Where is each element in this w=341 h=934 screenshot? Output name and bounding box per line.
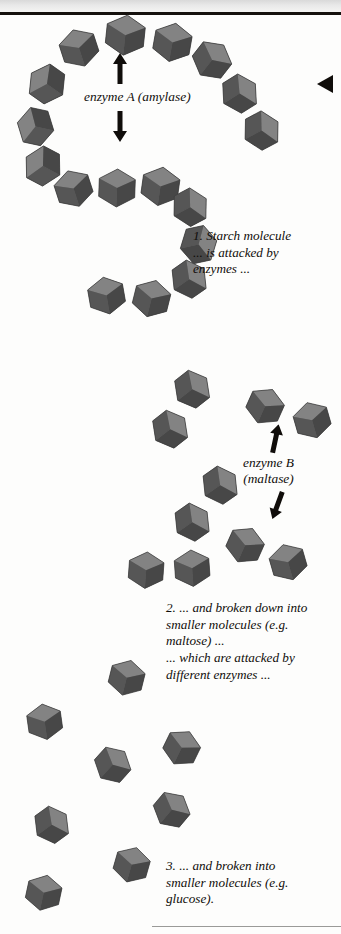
molecule-unit — [102, 655, 151, 701]
molecule-unit — [25, 797, 80, 853]
caption-step-3: 3. ... and broken into smaller molecules… — [166, 858, 288, 908]
molecule-unit — [22, 700, 68, 743]
molecule-unit — [238, 380, 292, 432]
page-marker-triangle-icon — [316, 74, 334, 98]
enzyme-b-label: enzyme B(maltase) — [243, 455, 294, 487]
enzyme-b-down-arrow-icon — [265, 488, 289, 521]
molecule-unit — [144, 782, 200, 837]
enzyme-b-label-line2: (maltase) — [243, 471, 294, 486]
enzyme-b-label-line1: enzyme B — [243, 455, 294, 470]
scan-edge-band-top — [0, 0, 341, 12]
enzyme-a-up-arrow-icon — [112, 53, 128, 85]
page-rule-bottom — [152, 926, 341, 927]
molecule-unit — [155, 722, 209, 774]
caption-step-2: 2. ... and broken down into smaller mole… — [166, 600, 307, 683]
enzyme-a-down-arrow-icon — [112, 110, 128, 142]
molecule-unit — [82, 273, 131, 319]
molecule-unit — [94, 167, 139, 209]
molecule-unit — [85, 737, 141, 793]
molecule-unit — [170, 547, 215, 588]
molecule-unit — [20, 870, 68, 915]
molecule-unit — [126, 275, 177, 323]
molecule-unit — [107, 841, 157, 889]
figure-canvas: enzyme A (amylase) enzyme B(maltase) 1. … — [0, 0, 341, 934]
molecule-unit — [218, 519, 272, 571]
enzyme-a-label: enzyme A (amylase) — [84, 89, 191, 105]
molecule-unit — [124, 549, 169, 590]
molecule-unit — [262, 538, 313, 587]
molecule-unit — [286, 396, 337, 445]
caption-step-1: 1. Starch molecule ... is attacked by en… — [193, 228, 291, 278]
molecule-unit — [100, 11, 151, 58]
page-rule-top — [0, 12, 341, 15]
